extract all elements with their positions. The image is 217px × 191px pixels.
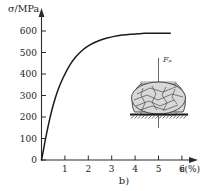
figure-caption: b) [119, 175, 129, 186]
x-tick-label-4: 4 [132, 164, 138, 174]
specimen-inset: Fₚ [130, 55, 188, 128]
y-tick-label-300: 300 [20, 91, 37, 101]
x-tick-label-1: 1 [62, 164, 68, 174]
x-tick-labels-group: 1 2 3 4 5 6 [62, 164, 185, 174]
y-tick-label-500: 500 [20, 48, 37, 58]
x-tick-label-2: 2 [85, 164, 91, 174]
x-ticks-group [65, 156, 182, 161]
x-tick-label-3: 3 [109, 164, 115, 174]
x-axis-title: ε(%) [180, 164, 200, 174]
y-axis-title: σ/MPa [8, 3, 39, 14]
x-axis-arrowhead [189, 157, 198, 163]
y-tick-label-200: 200 [20, 112, 37, 122]
figure-container: 0 100 200 300 400 500 600 1 2 3 4 5 6 σ/… [0, 0, 217, 191]
stress-strain-chart: 0 100 200 300 400 500 600 1 2 3 4 5 6 σ/… [0, 0, 217, 191]
force-label: Fₚ [162, 55, 173, 64]
y-axis-arrowhead [39, 8, 45, 17]
y-tick-label-400: 400 [20, 69, 37, 79]
y-tick-labels-group: 0 100 200 300 400 500 600 [20, 26, 37, 165]
x-tick-label-5: 5 [156, 164, 162, 174]
y-tick-label-600: 600 [20, 26, 37, 36]
y-tick-label-0: 0 [31, 155, 37, 165]
y-tick-label-100: 100 [20, 134, 37, 144]
